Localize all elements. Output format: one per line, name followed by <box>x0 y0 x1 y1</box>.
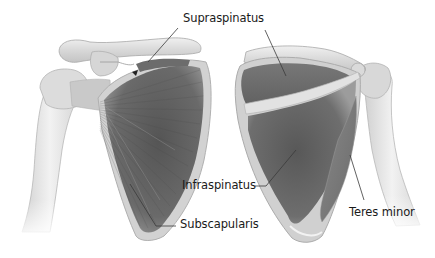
label-supraspinatus: Supraspinatus <box>183 13 264 25</box>
label-subscapularis: Subscapularis <box>180 219 259 231</box>
label-infraspinatus: Infraspinatus <box>182 180 256 192</box>
label-teres-minor: Teres minor <box>349 207 415 219</box>
clavicle <box>59 38 201 62</box>
anterior-view <box>15 38 211 241</box>
rotator-cuff-diagram: Supraspinatus Infraspinatus Subscapulari… <box>0 0 435 258</box>
subscapularis-muscle <box>104 66 203 233</box>
leader-teres-minor <box>350 155 364 200</box>
